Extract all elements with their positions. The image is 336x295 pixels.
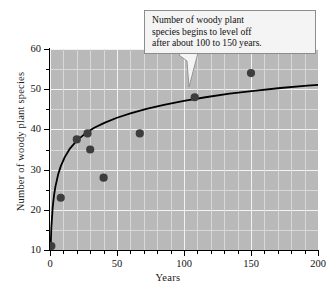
y-axis-tick xyxy=(44,129,49,130)
data-point xyxy=(57,194,65,202)
annotation-callout: Number of woody plant species begins to … xyxy=(144,10,316,54)
x-axis-tick-label: 200 xyxy=(301,258,335,269)
data-point xyxy=(50,242,55,250)
data-points xyxy=(50,69,255,250)
x-axis-tick xyxy=(157,251,158,254)
x-axis-tick xyxy=(130,251,131,254)
x-axis-tick xyxy=(104,251,105,254)
x-axis-tick-label: 100 xyxy=(167,258,201,269)
x-axis-tick xyxy=(90,251,91,254)
x-axis-tick-label: 150 xyxy=(234,258,268,269)
y-axis-tick xyxy=(44,89,49,90)
x-axis-tick xyxy=(305,251,306,254)
x-axis-tick-label: 0 xyxy=(33,258,67,269)
x-axis-tick xyxy=(238,251,239,254)
chart-figure: 102030405060 050100150200 Years Number o… xyxy=(0,0,336,295)
data-point xyxy=(100,174,108,182)
y-axis-tick xyxy=(46,69,49,70)
x-axis-title: Years xyxy=(0,272,336,283)
annotation-line-3: after about 100 to 150 years. xyxy=(152,37,309,49)
x-axis-tick xyxy=(278,251,279,254)
x-axis-tick xyxy=(171,251,172,254)
fit-curve xyxy=(51,85,318,249)
data-point xyxy=(73,135,81,143)
x-axis-tick xyxy=(291,251,292,254)
x-axis-tick xyxy=(184,251,185,256)
y-axis-tick xyxy=(46,109,49,110)
y-axis-tick xyxy=(44,250,49,251)
x-axis-tick xyxy=(264,251,265,254)
y-axis-tick-label: 10 xyxy=(15,244,41,255)
y-axis-line xyxy=(49,48,50,251)
data-point xyxy=(191,93,199,101)
annotation-line-2: species begins to level off xyxy=(152,26,309,38)
y-axis-tick xyxy=(44,210,49,211)
x-axis-tick xyxy=(318,251,319,256)
x-axis-tick xyxy=(144,251,145,254)
data-point xyxy=(247,69,255,77)
data-point xyxy=(136,129,144,137)
annotation-line-1: Number of woody plant xyxy=(152,14,309,26)
y-axis-tick xyxy=(46,230,49,231)
y-axis-tick xyxy=(44,49,49,50)
x-axis-tick-label: 50 xyxy=(100,258,134,269)
data-point xyxy=(86,145,94,153)
x-axis-tick xyxy=(224,251,225,254)
x-axis-tick xyxy=(50,251,51,256)
x-axis-tick xyxy=(251,251,252,256)
x-axis-tick xyxy=(211,251,212,254)
x-axis-tick xyxy=(77,251,78,254)
x-axis-tick xyxy=(117,251,118,256)
data-point xyxy=(83,129,91,137)
y-axis-title: Number of woody plant species xyxy=(15,42,26,242)
x-axis-tick xyxy=(197,251,198,254)
y-axis-tick xyxy=(46,150,49,151)
y-axis-tick xyxy=(46,190,49,191)
x-axis-tick xyxy=(63,251,64,254)
y-axis-tick xyxy=(44,170,49,171)
